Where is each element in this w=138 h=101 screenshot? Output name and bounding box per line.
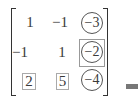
circled-entry-r1-c3: −3 bbox=[81, 12, 103, 34]
entry-r1-c1: 1 bbox=[20, 14, 40, 30]
entry-r2-c2: 1 bbox=[52, 44, 72, 60]
circled-entry-r2-c3: −2 bbox=[81, 41, 103, 63]
boxed-entry-r3-c2: 5 bbox=[56, 73, 69, 90]
circled-entry-r3-c3: −4 bbox=[81, 69, 103, 91]
entry-r1-c2: −1 bbox=[50, 14, 70, 30]
gray-bar-marker bbox=[126, 84, 138, 89]
boxed-entry-r3-c1: 2 bbox=[22, 73, 36, 90]
entry-r2-c1: −1 bbox=[10, 44, 30, 60]
